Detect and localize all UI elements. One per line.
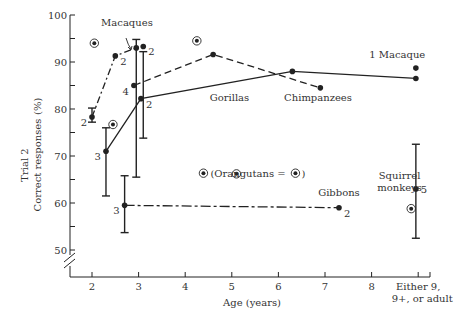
sample-size-label: 4: [123, 86, 129, 97]
sample-size-label: 2: [146, 99, 152, 110]
data-point: [122, 203, 128, 209]
orangutan-marker-dot: [201, 171, 205, 175]
sample-size-label: 2: [344, 208, 350, 219]
annotation-label: 1 Macaque: [369, 49, 425, 60]
sample-size-label: 3: [113, 205, 119, 216]
data-point: [336, 205, 342, 211]
x-tick-label: 6: [275, 281, 281, 292]
y-tick-label: 60: [54, 198, 67, 209]
annotation-label: monkeys: [377, 182, 422, 193]
x-tick-label: 5: [229, 281, 235, 292]
data-point: [133, 45, 139, 51]
series-macaques: 22: [81, 39, 141, 177]
series-1-macaque: [413, 65, 419, 71]
data-point: [413, 76, 419, 82]
y-axis-title: Trial 2Correct responses(%): [19, 98, 43, 212]
series-orangutans: [90, 37, 415, 213]
series-macaques-isolated-: 2: [139, 44, 154, 138]
line-chart: 50607080901002345678Either 9,9+, or adul…: [0, 0, 456, 321]
data-point: [138, 96, 144, 102]
orangutan-marker-dot: [111, 123, 115, 127]
y-tick-label: 70: [54, 151, 67, 162]
series-gibbons: 32: [113, 176, 350, 233]
x-tick-label: Either 9,: [396, 281, 440, 292]
data-point: [113, 53, 119, 59]
annotation-label: Chimpanzees: [284, 92, 352, 103]
y-tick-label: 90: [54, 57, 67, 68]
x-tick-label-line2: 9+, or adult: [392, 293, 453, 304]
data-point: [103, 149, 109, 155]
sample-size-label: 2: [120, 56, 126, 67]
data-point: [131, 83, 137, 89]
annotation-paren: ): [301, 168, 305, 179]
annotation-label: Squirrel: [379, 170, 421, 181]
y-axis-title-line2: Correct responses: [32, 119, 43, 212]
sample-size-label: 3: [95, 151, 101, 162]
orangutan-marker-dot: [92, 41, 96, 45]
series-line: [106, 71, 416, 151]
orangutan-marker-dot: [293, 171, 297, 175]
y-tick-label: 50: [54, 245, 67, 256]
data-point: [210, 52, 216, 58]
annotation-label: (Orangutans =: [210, 168, 285, 179]
annotation-label: Macaques: [101, 17, 153, 28]
x-tick-label: 3: [135, 281, 141, 292]
data-point: [290, 69, 296, 75]
y-tick-label: 80: [54, 104, 67, 115]
y-tick-label: 100: [48, 10, 67, 21]
annotation-label: Gorillas: [210, 92, 249, 103]
x-axis-title: Age (years): [222, 297, 281, 308]
sample-size-label: 2: [81, 117, 87, 128]
x-tick-label: 8: [368, 281, 374, 292]
data-series: 222432325: [81, 37, 428, 239]
orangutan-marker-dot: [195, 39, 199, 43]
sample-size-label: 2: [148, 46, 154, 57]
x-tick-label: 2: [89, 281, 95, 292]
annotation-label: Gibbons: [318, 187, 360, 198]
y-axis-title-line1: Trial 2: [19, 148, 30, 181]
y-axis-title-unit: (%): [32, 98, 43, 115]
data-point: [140, 44, 146, 50]
series-line: [125, 205, 339, 207]
data-point: [413, 65, 419, 71]
orangutan-marker-dot: [409, 207, 413, 211]
x-tick-label: 7: [322, 281, 328, 292]
data-point: [89, 114, 95, 120]
data-point: [318, 85, 324, 91]
x-tick-label: 4: [182, 281, 188, 292]
